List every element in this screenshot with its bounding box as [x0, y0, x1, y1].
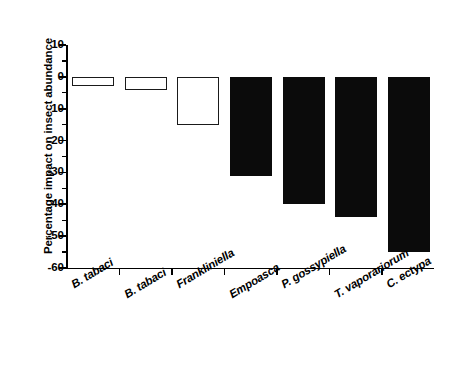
y-tick-minor	[62, 251, 67, 252]
x-tick-2	[171, 268, 173, 275]
x-axis-label-4: P. gossypiella	[279, 242, 348, 290]
y-tick-minor	[62, 60, 67, 61]
y-tick-label--10: -10	[24, 103, 64, 115]
y-tick-minor	[62, 156, 67, 157]
bar-6	[388, 77, 430, 252]
y-tick-label--20: -20	[24, 135, 64, 147]
bar-3	[230, 77, 272, 176]
y-tick-minor	[62, 124, 67, 125]
x-tick-5	[329, 268, 331, 275]
y-tick-label--40: -40	[24, 198, 64, 210]
bar-0	[72, 77, 114, 87]
y-tick-label--50: -50	[24, 230, 64, 242]
x-tick-3	[224, 268, 226, 275]
x-axis-label-1: B. tabaci	[122, 266, 168, 300]
chart-figure: Percentage impact on insect abundance 10…	[0, 0, 451, 369]
x-tick-1	[119, 268, 121, 275]
x-axis-label-0: B. tabaci	[69, 256, 115, 290]
y-tick-minor	[62, 188, 67, 189]
y-tick-label--60: -60	[24, 262, 64, 274]
y-tick-minor	[62, 92, 67, 93]
bar-4	[283, 77, 325, 204]
y-tick-label--30: -30	[24, 166, 64, 178]
bar-2	[177, 77, 219, 125]
y-tick-label-0: 0	[24, 71, 64, 83]
y-tick-label-10: 10	[24, 39, 64, 51]
y-tick-minor	[62, 220, 67, 221]
y-axis-line	[66, 45, 68, 269]
bar-1	[125, 77, 167, 90]
bar-5	[335, 77, 377, 217]
